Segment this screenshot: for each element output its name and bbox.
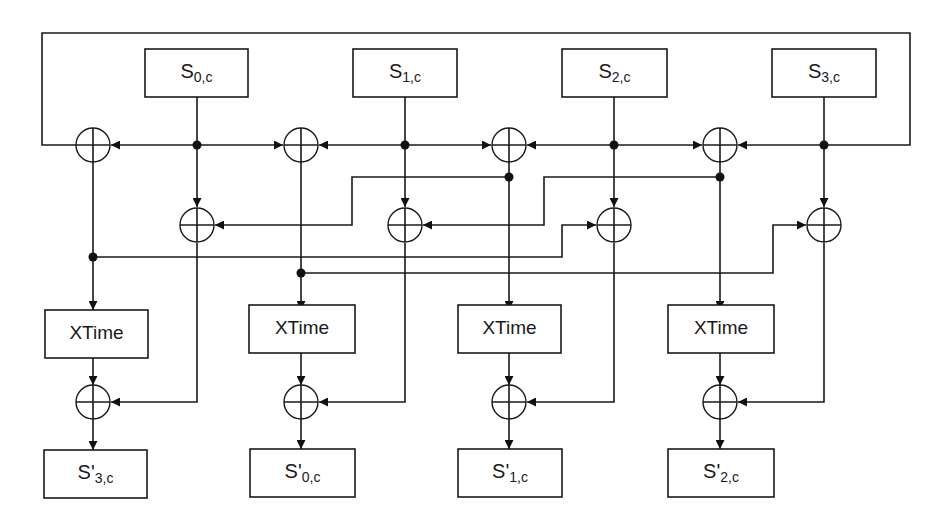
xor-icon — [76, 385, 110, 419]
output-boxes — [44, 449, 774, 498]
xor-icon — [492, 128, 526, 162]
xor-icon — [284, 128, 318, 162]
output-label-s3: S'3,c — [44, 461, 147, 486]
xtime-outputs — [93, 353, 720, 385]
xtime-label-3: XTime — [668, 317, 774, 339]
xor-icon — [703, 128, 737, 162]
input-boxes — [145, 49, 876, 97]
xor-icon — [492, 385, 526, 419]
output-label-s0: S'0,c — [250, 460, 355, 485]
xtime-label-0: XTime — [45, 322, 148, 344]
xor-icon — [180, 208, 214, 242]
output-label-s1: S'1,c — [458, 460, 562, 485]
xor-icon — [388, 208, 422, 242]
input-label-s0: S0,c — [145, 60, 248, 85]
xor-icon — [703, 385, 737, 419]
xtime-boxes — [45, 305, 774, 358]
xtime-label-1: XTime — [249, 317, 355, 339]
xor-icon — [597, 208, 631, 242]
output-label-s2: S'2,c — [668, 460, 774, 485]
input-label-s3: S3,c — [772, 60, 876, 85]
final-outputs — [93, 419, 720, 450]
xor-icon — [807, 208, 841, 242]
xor-icon — [284, 385, 318, 419]
input-label-s1: S1,c — [353, 60, 457, 85]
xtime-label-2: XTime — [458, 317, 561, 339]
input-label-s2: S2,c — [562, 60, 667, 85]
xor-icon — [76, 128, 110, 162]
